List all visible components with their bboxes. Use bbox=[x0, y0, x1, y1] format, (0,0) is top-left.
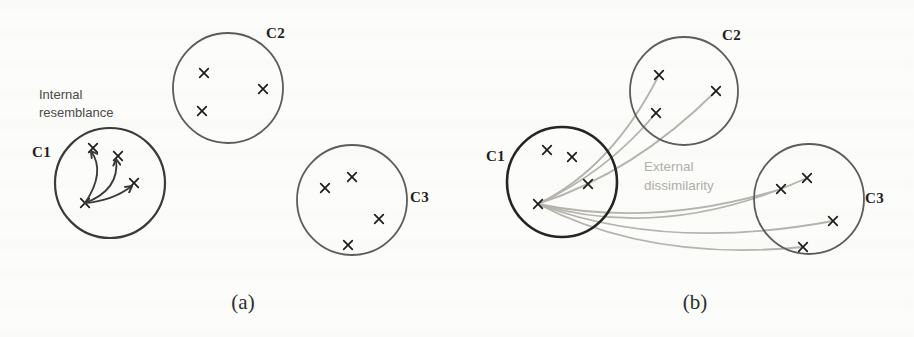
internal-resemblance-line1: Internal bbox=[39, 86, 113, 104]
cluster-diagram-svg bbox=[0, 0, 914, 337]
cluster-c1-label-panel-a: C1 bbox=[32, 144, 51, 161]
data-point-x-mark-b bbox=[584, 180, 593, 189]
cluster-c2-circle-a bbox=[173, 33, 283, 143]
external-dissimilarity-curve-b bbox=[538, 204, 833, 233]
cluster-c3-circle-b bbox=[754, 144, 864, 254]
cluster-c1-circle-a bbox=[55, 128, 165, 238]
cluster-c2-label-panel-b: C2 bbox=[722, 27, 741, 44]
data-point-x-mark-b bbox=[543, 146, 552, 155]
data-point-x-mark-a bbox=[114, 152, 123, 161]
data-point-x-mark-b bbox=[655, 71, 664, 80]
cluster-c3-label-panel-a: C3 bbox=[410, 189, 429, 206]
cluster-c1-circle-b bbox=[507, 127, 617, 237]
cluster-c3-circle-a bbox=[297, 145, 407, 255]
internal-resemblance-line2: resemblance bbox=[39, 104, 113, 122]
internal-resemblance-arrow-a bbox=[85, 151, 97, 203]
external-dissimilarity-line2: dissimilarity bbox=[644, 176, 714, 195]
data-point-x-mark-a bbox=[348, 173, 357, 182]
data-point-x-mark-a bbox=[375, 215, 384, 224]
figure-canvas: Internal resemblance C1 C2 C3 (a) Extern… bbox=[0, 0, 914, 337]
data-point-x-mark-b bbox=[712, 87, 721, 96]
data-point-x-mark-a bbox=[89, 144, 98, 153]
data-point-x-mark-b bbox=[652, 109, 661, 118]
data-point-x-mark-a bbox=[344, 241, 353, 250]
data-point-x-mark-a bbox=[259, 85, 268, 94]
panel-a-caption: (a) bbox=[231, 290, 254, 315]
cluster-c2-circle-b bbox=[630, 37, 738, 145]
data-point-x-mark-b bbox=[803, 174, 812, 183]
external-dissimilarity-annotation: External dissimilarity bbox=[644, 157, 714, 195]
cluster-c3-label-panel-b: C3 bbox=[865, 190, 884, 207]
panel-b-caption: (b) bbox=[683, 290, 708, 315]
cluster-c1-label-panel-b: C1 bbox=[486, 148, 505, 165]
data-point-x-mark-b bbox=[568, 153, 577, 162]
cluster-c2-label-panel-a: C2 bbox=[266, 25, 285, 42]
data-point-x-mark-a bbox=[200, 69, 209, 78]
external-dissimilarity-line1: External bbox=[644, 157, 714, 176]
data-point-x-mark-a bbox=[321, 184, 330, 193]
data-point-x-mark-a bbox=[198, 107, 207, 116]
internal-resemblance-annotation: Internal resemblance bbox=[39, 86, 113, 122]
